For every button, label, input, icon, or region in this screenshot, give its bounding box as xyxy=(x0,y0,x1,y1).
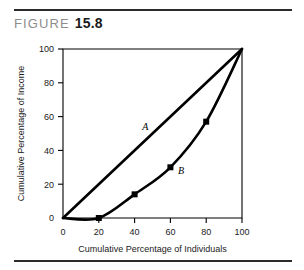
chart-series-group xyxy=(63,49,242,221)
series-label-a: A xyxy=(141,121,149,132)
y-tick-label: 40 xyxy=(44,146,54,156)
data-point xyxy=(132,191,138,197)
x-axis-title: Cumulative Percentage of Individuals xyxy=(78,244,227,254)
x-axis-ticks xyxy=(99,218,242,223)
figure-label: FIGURE xyxy=(14,16,70,31)
figure-container: FIGURE15.8 020406080100 020406080100 AB … xyxy=(0,0,304,270)
y-tick-label: 80 xyxy=(44,78,54,88)
x-axis-tick-labels: 020406080100 xyxy=(60,227,249,237)
y-tick-label: 20 xyxy=(44,180,54,190)
data-point xyxy=(167,164,173,170)
data-point xyxy=(203,119,209,125)
chart-svg: 020406080100 020406080100 AB Cumulative … xyxy=(0,36,304,258)
x-tick-label: 0 xyxy=(60,227,65,237)
x-tick-label: 20 xyxy=(94,227,104,237)
series-curve-a xyxy=(63,49,242,218)
lorenz-curve-chart: 020406080100 020406080100 AB Cumulative … xyxy=(0,36,304,258)
y-axis-title: Cumulative Percentage of Income xyxy=(16,66,26,202)
y-axis-tick-labels: 020406080100 xyxy=(39,44,54,223)
x-tick-label: 40 xyxy=(130,227,140,237)
y-tick-label: 0 xyxy=(49,213,54,223)
figure-caption: FIGURE15.8 xyxy=(14,14,103,32)
x-tick-label: 100 xyxy=(234,227,249,237)
series-label-b: B xyxy=(178,165,184,176)
y-tick-label: 100 xyxy=(39,44,54,54)
header-divider xyxy=(14,9,292,11)
y-axis-ticks xyxy=(58,49,63,184)
data-point xyxy=(96,215,102,221)
x-tick-label: 60 xyxy=(165,227,175,237)
y-tick-label: 60 xyxy=(44,112,54,122)
series-annotations: AB xyxy=(141,121,184,176)
footer-divider xyxy=(14,260,292,262)
x-tick-label: 80 xyxy=(201,227,211,237)
figure-number: 15.8 xyxy=(75,15,103,31)
